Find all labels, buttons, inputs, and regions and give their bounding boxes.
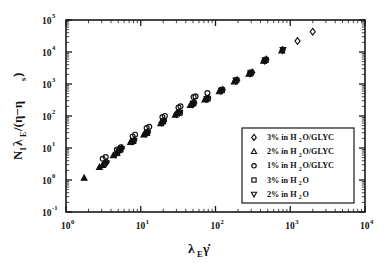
- y-tick-label: 105: [42, 12, 56, 25]
- legend-label-subscript: 2: [299, 166, 302, 172]
- svg-text:-1: -1: [52, 204, 58, 211]
- log-log-scatter-plot: 100101102103104 10-1100101102103104105 3…: [0, 0, 389, 274]
- svg-text:2: 2: [221, 218, 225, 225]
- x-tick-label: 100: [61, 218, 75, 231]
- svg-text:10: 10: [42, 176, 52, 186]
- legend-label-pre: 3% in H: [267, 133, 297, 142]
- x-axis-title-gammadot: γ̇: [202, 241, 211, 256]
- legend-label-subscript: 2: [299, 194, 302, 200]
- data-point-diamond: [295, 38, 300, 45]
- svg-text:4: 4: [52, 44, 56, 51]
- svg-text:0: 0: [71, 218, 75, 225]
- y-tick-label: 102: [42, 108, 56, 121]
- y-axis-title-denominator: /(η−η: [10, 101, 25, 132]
- x-axis-title: λ E γ̇: [188, 241, 211, 259]
- x-tick-label: 104: [360, 218, 374, 231]
- x-axis-title-lambda: λ: [188, 241, 195, 256]
- svg-text:10: 10: [42, 144, 52, 154]
- legend-label-subscript: 2: [299, 152, 302, 158]
- x-tick-label: 103: [285, 218, 299, 231]
- svg-text:10: 10: [61, 221, 71, 231]
- legend-label-pre: 2% in H: [267, 190, 297, 199]
- svg-text:10: 10: [136, 221, 146, 231]
- data-point-triangle-up: [81, 175, 87, 180]
- y-axis-title-lambda-subscript: E: [19, 132, 28, 137]
- y-tick-label: 101: [42, 140, 55, 153]
- svg-text:1: 1: [52, 140, 55, 147]
- svg-text:10: 10: [42, 80, 52, 90]
- svg-text:3: 3: [52, 76, 56, 83]
- legend-label-post: O/GLYC: [302, 161, 334, 170]
- data-point-circle: [205, 91, 210, 96]
- svg-text:10: 10: [42, 208, 52, 218]
- figure-container: 100101102103104 10-1100101102103104105 3…: [0, 0, 389, 274]
- legend-label-subscript: 2: [299, 137, 302, 143]
- data-point-diamond: [310, 28, 315, 35]
- y-axis-title-close-paren: ): [10, 73, 25, 77]
- svg-text:1: 1: [146, 218, 149, 225]
- legend-label-post: O/GLYC: [302, 147, 334, 156]
- svg-text:10: 10: [42, 48, 52, 58]
- svg-text:10: 10: [360, 221, 370, 231]
- x-axis-tick-labels: 100101102103104: [61, 218, 374, 231]
- legend-label-pre: 1% in H: [267, 161, 297, 170]
- svg-text:10: 10: [42, 112, 52, 122]
- svg-text:2: 2: [52, 108, 56, 115]
- y-axis-title: N 1 λ E /(η−η s ): [10, 73, 28, 160]
- x-tick-label: 101: [136, 218, 149, 231]
- y-tick-label: 100: [42, 172, 56, 185]
- plot-legend: 3% in H2O/GLYC2% in H2O/GLYC1% in H2O/GL…: [242, 128, 354, 203]
- svg-text:10: 10: [285, 221, 295, 231]
- y-axis-title-lambda: λ: [10, 139, 25, 146]
- y-tick-label: 104: [42, 44, 56, 57]
- y-axis-title-N-subscript: 1: [19, 147, 28, 151]
- y-axis-tick-labels: 10-1100101102103104105: [42, 12, 58, 217]
- svg-text:5: 5: [52, 12, 56, 19]
- y-tick-label: 103: [42, 76, 56, 89]
- svg-text:0: 0: [52, 172, 56, 179]
- y-tick-label: 10-1: [42, 204, 58, 217]
- legend-label-post: O: [302, 190, 308, 199]
- svg-text:3: 3: [295, 218, 299, 225]
- svg-text:10: 10: [211, 221, 221, 231]
- legend-label-post: O/GLYC: [302, 133, 334, 142]
- legend-label-pre: 2% in H: [267, 147, 297, 156]
- legend-label-post: O: [302, 176, 308, 185]
- svg-text:10: 10: [42, 16, 52, 26]
- legend-label-pre: 3% in H: [267, 176, 297, 185]
- y-axis-title-s-subscript: s: [19, 78, 28, 81]
- x-tick-label: 102: [211, 218, 225, 231]
- svg-text:4: 4: [370, 218, 374, 225]
- legend-label-subscript: 2: [299, 180, 302, 186]
